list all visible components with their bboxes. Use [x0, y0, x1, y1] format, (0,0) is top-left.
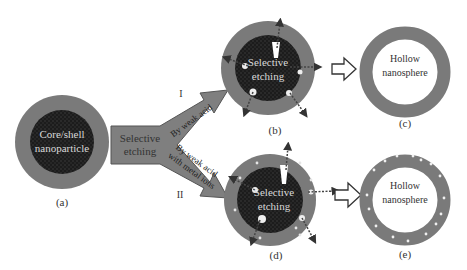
- node-d-line2: etching: [258, 200, 291, 212]
- selective-etching-d: Selective etching (d): [224, 146, 336, 262]
- selective-etching-b: Selective etching (b): [221, 21, 318, 137]
- node-b-line1: Selective: [248, 56, 288, 68]
- hollow-arrow-d-e: [335, 183, 361, 207]
- diagram-canvas: Core/shell nanoparticle (a) Selective et…: [0, 0, 467, 270]
- node-a-line1: Core/shell: [39, 128, 84, 140]
- route-II-roman: II: [177, 189, 184, 200]
- node-c-line1: Hollow: [390, 53, 421, 64]
- node-b-line2: etching: [252, 70, 285, 82]
- node-e-line2: nanosphere: [382, 194, 428, 205]
- node-a-line2: nanoparticle: [35, 142, 89, 154]
- caption-b: (b): [269, 124, 282, 137]
- caption-d: (d): [270, 249, 283, 262]
- arrow-main-line2: etching: [124, 145, 157, 157]
- route-I-roman: I: [179, 88, 182, 99]
- hollow-arrow-b-c: [332, 58, 356, 80]
- core-shell-nanoparticle: Core/shell nanoparticle (a): [15, 95, 109, 209]
- node-c-line2: nanosphere: [382, 67, 428, 78]
- caption-e: (e): [399, 248, 412, 261]
- hollow-nanosphere-e: Hollow nanosphere (e): [366, 155, 446, 261]
- caption-c: (c): [399, 117, 412, 130]
- node-d-line1: Selective: [254, 186, 294, 198]
- selective-etching-arrow: Selective etching By weak acid By weak a…: [111, 88, 228, 200]
- caption-a: (a): [56, 196, 69, 209]
- node-e-line1: Hollow: [390, 180, 421, 191]
- arrow-main-line1: Selective: [120, 132, 160, 144]
- hollow-nanosphere-c: Hollow nanosphere (c): [366, 33, 444, 130]
